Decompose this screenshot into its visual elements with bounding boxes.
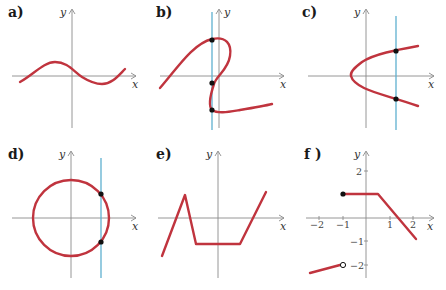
svg-text:−1: −1 (350, 236, 364, 247)
svg-text:x: x (280, 220, 287, 233)
intersection-point (393, 96, 398, 101)
graph-c: y x (296, 0, 446, 140)
svg-text:−1: −1 (336, 219, 350, 230)
graph-e: y x (148, 140, 296, 290)
graph-a: y x (0, 0, 148, 140)
svg-text:y: y (58, 148, 66, 161)
svg-text:−2: −2 (350, 260, 364, 271)
intersection-point (98, 191, 103, 196)
svg-text:1: 1 (387, 219, 393, 230)
svg-text:2: 2 (410, 219, 416, 230)
intersection-point (209, 80, 214, 85)
graph-d: y x (0, 140, 148, 290)
panel-c: c) y x (296, 0, 446, 140)
svg-text:y: y (353, 6, 361, 19)
svg-text:x: x (132, 220, 139, 233)
intersection-point (209, 107, 214, 112)
svg-text:x: x (280, 78, 287, 91)
svg-text:x: x (428, 78, 435, 91)
graph-b: y x (148, 0, 296, 140)
intersection-point (393, 48, 398, 53)
svg-text:x: x (427, 220, 434, 233)
panel-e: e) y x (148, 140, 296, 290)
svg-text:y: y (223, 6, 231, 19)
svg-text:−2: −2 (310, 219, 324, 230)
panel-b: b) y x (148, 0, 296, 140)
svg-text:y: y (59, 6, 67, 19)
closed-endpoint (340, 191, 345, 196)
panel-d: d) y x (0, 140, 148, 290)
panel-f: f ) y x −2 −1 1 2 2 −1 −2 (296, 140, 446, 290)
svg-text:y: y (205, 148, 213, 161)
svg-text:x: x (132, 78, 139, 91)
open-endpoint (340, 262, 345, 267)
svg-text:y: y (353, 148, 361, 161)
graph-f: y x −2 −1 1 2 2 −1 −2 (296, 140, 446, 290)
panel-a: a) y x (0, 0, 148, 140)
svg-text:2: 2 (356, 166, 362, 177)
intersection-point (209, 37, 214, 42)
intersection-point (98, 239, 103, 244)
